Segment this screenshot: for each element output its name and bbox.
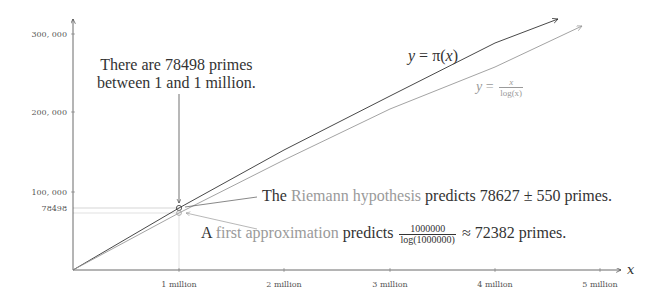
chart-canvas: 1 million 2 million 3 million 4 million … — [0, 0, 661, 302]
x-tick-2m: 2 million — [266, 280, 301, 289]
annotation-first-approx: A first approximation predicts 1000000lo… — [201, 224, 566, 245]
annotation-primes-count: There are 78498 primes between 1 and 1 m… — [97, 56, 256, 92]
annotation-riemann: The Riemann hypothesis predicts 78627 ± … — [262, 187, 612, 205]
label-x-over-log-x: y = xlog(x) — [476, 77, 525, 98]
x-axis-label: x — [627, 262, 635, 277]
y-tick-200k: 200, 000 — [31, 108, 67, 117]
y-marker-78498: 78498 — [42, 204, 67, 213]
y-axis — [71, 19, 75, 270]
x-tick-4m: 4 million — [477, 280, 512, 289]
x-tick-1m: 1 million — [161, 280, 196, 289]
x-axis — [73, 268, 621, 272]
x-tick-3m: 3 million — [372, 280, 407, 289]
y-tick-300k: 300, 000 — [31, 30, 67, 39]
label-pi-x: y = π(x) — [408, 47, 458, 65]
x-tick-5m: 5 million — [582, 280, 617, 289]
y-tick-100k: 100, 000 — [31, 188, 67, 197]
